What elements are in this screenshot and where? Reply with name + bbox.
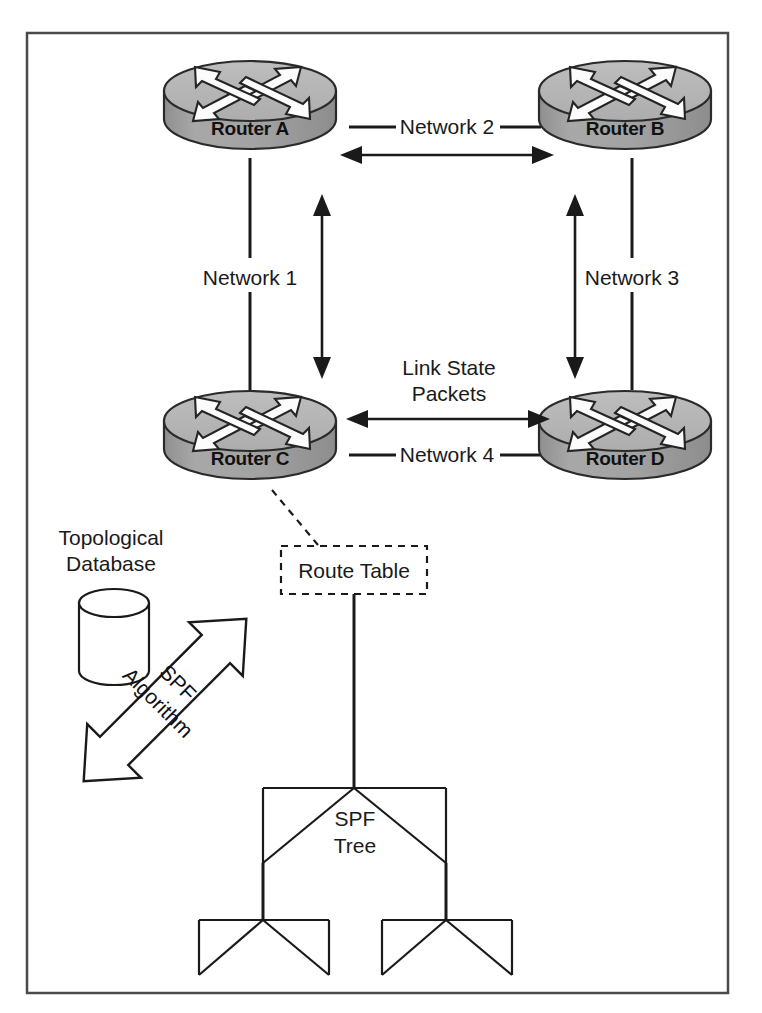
router-b-label: Router B — [586, 118, 665, 139]
svg-text:Link State: Link State — [402, 356, 495, 379]
router-c[interactable]: Router C — [164, 391, 336, 479]
spf-tree-label-line1: SPF — [335, 807, 376, 830]
network-diagram: Router A Router B Router C Router D Netw… — [0, 0, 762, 1013]
label-topological-database: Topological Database — [58, 526, 163, 575]
svg-text:Database: Database — [66, 552, 156, 575]
flow-arrow-c-d — [346, 410, 550, 428]
label-network-2: Network 2 — [400, 115, 495, 138]
diagram-frame — [27, 33, 728, 993]
router-a-label: Router A — [211, 118, 289, 139]
svg-text:Packets: Packets — [412, 382, 487, 405]
connector-router-c-to-route-table — [272, 490, 318, 545]
router-c-label: Router C — [211, 448, 290, 469]
label-network-3: Network 3 — [585, 266, 680, 289]
label-link-state-packets: Link State Packets — [402, 356, 495, 405]
router-b[interactable]: Router B — [539, 61, 711, 149]
spf-tree: SPF Tree — [199, 788, 512, 975]
route-table-label: Route Table — [298, 559, 410, 582]
router-d[interactable]: Router D — [539, 391, 711, 479]
flow-arrow-b-d — [566, 194, 584, 379]
router-a[interactable]: Router A — [164, 61, 336, 149]
diagram-canvas: Router A Router B Router C Router D Netw… — [0, 0, 762, 1013]
flow-arrow-a-b — [340, 146, 554, 164]
label-network-4: Network 4 — [400, 443, 495, 466]
label-network-1: Network 1 — [203, 266, 298, 289]
router-d-label: Router D — [586, 448, 665, 469]
flow-arrow-a-c — [313, 194, 331, 379]
spf-tree-label-line2: Tree — [334, 834, 376, 857]
svg-text:Topological: Topological — [58, 526, 163, 549]
